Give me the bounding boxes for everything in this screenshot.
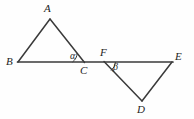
- segment-AB: [18, 19, 50, 62]
- vertex-label-A: A: [44, 3, 51, 14]
- vertex-label-D: D: [137, 104, 145, 115]
- segment-FD: [104, 62, 142, 102]
- geometry-canvas: [0, 0, 194, 119]
- vertex-label-C: C: [80, 65, 87, 76]
- vertex-label-B: B: [6, 56, 13, 67]
- geometry-figure: A B C D E F α β: [0, 0, 194, 119]
- vertex-label-F: F: [100, 47, 107, 58]
- angle-label-beta: β: [113, 62, 118, 72]
- segment-DE: [142, 62, 172, 101]
- angle-label-alpha: α: [70, 51, 75, 61]
- vertex-label-E: E: [175, 51, 182, 62]
- segment-AC: [50, 19, 85, 63]
